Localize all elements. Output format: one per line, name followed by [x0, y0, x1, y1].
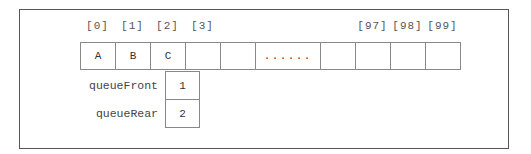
array-cell — [425, 42, 461, 70]
array-ellipsis-cell: ...... — [255, 42, 321, 70]
array-index-label: [97] — [355, 20, 390, 32]
array-cell — [390, 42, 426, 70]
array-index-label: [3] — [185, 20, 220, 32]
queue-front-value: 1 — [165, 71, 200, 100]
array-index-label: [2] — [150, 20, 185, 32]
queue-front-label: queueFront — [58, 79, 158, 92]
array-cell: A — [80, 42, 116, 70]
queue-rear-value: 2 — [165, 99, 200, 128]
array-cell: B — [115, 42, 151, 70]
array-index-label: [99] — [425, 20, 460, 32]
array-cell: C — [150, 42, 186, 70]
queue-rear-label: queueRear — [58, 107, 158, 120]
array-cell — [220, 42, 256, 70]
array-cell — [320, 42, 356, 70]
array-index-label: [98] — [390, 20, 425, 32]
array-cell — [185, 42, 221, 70]
array-index-label: [0] — [80, 20, 115, 32]
array-index-label: [1] — [115, 20, 150, 32]
array-cell — [355, 42, 391, 70]
